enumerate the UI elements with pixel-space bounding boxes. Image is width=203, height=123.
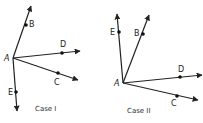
point-label: B bbox=[29, 20, 35, 29]
case-2-diagram: EBDCACase II bbox=[110, 14, 202, 115]
ray-AE: E bbox=[8, 58, 18, 111]
case-caption: Case II bbox=[127, 107, 151, 115]
ray-line bbox=[13, 58, 17, 111]
point-label: D bbox=[178, 65, 184, 74]
point-d-dot bbox=[178, 75, 182, 79]
ray-AD: D bbox=[123, 65, 202, 83]
point-c-dot bbox=[56, 71, 60, 75]
ray-line bbox=[123, 15, 149, 83]
point-label: B bbox=[134, 29, 140, 38]
ray-AC: C bbox=[123, 83, 198, 108]
point-c-dot bbox=[175, 94, 179, 98]
ray-line bbox=[13, 58, 78, 80]
point-label: E bbox=[8, 88, 13, 97]
ray-AB: B bbox=[123, 15, 149, 83]
vertex-label: A bbox=[113, 79, 119, 88]
ray-AE: E bbox=[110, 14, 123, 83]
ray-line bbox=[13, 6, 31, 58]
point-b-dot bbox=[141, 32, 145, 36]
geometry-figure: BDCEACase I EBDCACase II bbox=[0, 0, 203, 123]
ray-AB: B bbox=[13, 6, 35, 58]
case-1-diagram: BDCEACase I bbox=[3, 6, 80, 113]
point-d-dot bbox=[60, 51, 64, 55]
vertex-label: A bbox=[3, 54, 9, 63]
point-label: D bbox=[60, 40, 66, 49]
point-b-dot bbox=[24, 23, 28, 27]
ray-line bbox=[123, 75, 202, 83]
case-caption: Case I bbox=[35, 105, 56, 113]
ray-line bbox=[123, 83, 198, 100]
point-label: C bbox=[171, 99, 177, 108]
point-label: E bbox=[110, 28, 115, 37]
point-label: C bbox=[54, 78, 60, 87]
ray-line bbox=[13, 51, 80, 58]
ray-AC: C bbox=[13, 58, 78, 87]
ray-AD: D bbox=[13, 40, 80, 58]
point-e-dot bbox=[14, 90, 18, 94]
ray-line bbox=[117, 14, 123, 83]
point-e-dot bbox=[117, 30, 121, 34]
